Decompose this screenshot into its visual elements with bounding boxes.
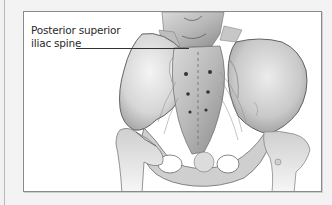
label-line-1: Posterior superior — [31, 24, 120, 37]
outer-panel: Posterior superior iliac spine — [4, 0, 332, 205]
label-posterior-superior-iliac-spine: Posterior superior iliac spine — [31, 24, 120, 50]
right-femur — [264, 131, 310, 192]
figure-frame: Posterior superior iliac spine — [23, 11, 322, 192]
left-femur — [116, 128, 163, 192]
sacrum — [172, 46, 224, 154]
right-ilium — [228, 39, 307, 134]
label-leader-line — [76, 48, 189, 49]
